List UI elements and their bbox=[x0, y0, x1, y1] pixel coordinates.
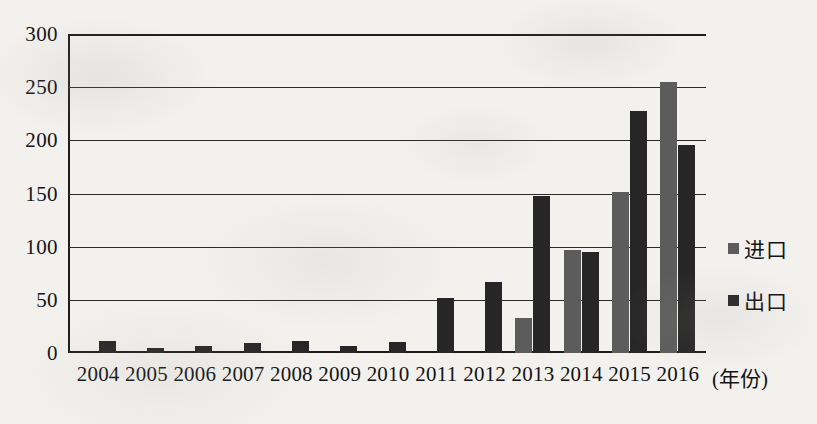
plot-area bbox=[68, 34, 706, 353]
x-axis-tick-label: 2010 bbox=[364, 362, 412, 387]
legend-item: 出口 bbox=[728, 285, 788, 315]
bar-group bbox=[654, 34, 702, 353]
bar bbox=[389, 342, 406, 353]
x-axis-tick-label: 2007 bbox=[219, 362, 267, 387]
y-axis-tick-label: 0 bbox=[47, 341, 58, 366]
x-axis-category-labels: 2004200520062007200820092010201120122013… bbox=[68, 362, 706, 387]
bar bbox=[660, 82, 677, 353]
x-axis-tick-label: 2011 bbox=[412, 362, 460, 387]
bar bbox=[195, 346, 212, 353]
x-axis-tick-label: 2016 bbox=[654, 362, 702, 387]
bar-group bbox=[557, 34, 605, 353]
bar bbox=[533, 196, 550, 353]
y-axis-tick-label: 200 bbox=[25, 128, 58, 153]
bar bbox=[630, 111, 647, 353]
legend-swatch-export bbox=[728, 295, 739, 306]
bar-group bbox=[171, 34, 219, 353]
legend-item: 进口 bbox=[728, 233, 788, 263]
y-axis-tick-label: 100 bbox=[25, 234, 58, 259]
bar-group bbox=[122, 34, 170, 353]
bar-group bbox=[461, 34, 509, 353]
bar bbox=[244, 343, 261, 353]
y-axis-tick-labels: 300250200150100500 bbox=[0, 34, 58, 353]
bar-groups bbox=[68, 34, 706, 353]
x-axis-title: (年份) bbox=[712, 362, 768, 392]
bar-group bbox=[509, 34, 557, 353]
x-axis-tick-label: 2015 bbox=[605, 362, 653, 387]
bar-group bbox=[267, 34, 315, 353]
bar bbox=[485, 282, 502, 353]
y-axis-tick-label: 50 bbox=[36, 287, 58, 312]
bar-group bbox=[605, 34, 653, 353]
bar-group bbox=[219, 34, 267, 353]
x-axis-tick-label: 2009 bbox=[316, 362, 364, 387]
y-axis-tick-label: 150 bbox=[25, 181, 58, 206]
x-axis-tick-label: 2014 bbox=[557, 362, 605, 387]
bar-group bbox=[364, 34, 412, 353]
legend-swatch-import bbox=[728, 243, 739, 254]
bar bbox=[437, 298, 454, 353]
x-axis-tick-label: 2013 bbox=[509, 362, 557, 387]
legend-label: 进口 bbox=[744, 233, 788, 263]
bar-chart: 300250200150100500 200420052006200720082… bbox=[0, 0, 817, 424]
bar bbox=[564, 250, 581, 353]
bar bbox=[292, 341, 309, 353]
bar-group bbox=[316, 34, 364, 353]
x-axis-tick-label: 2005 bbox=[122, 362, 170, 387]
bar bbox=[147, 348, 164, 353]
legend-label: 出口 bbox=[744, 285, 788, 315]
chart-legend: 进口出口 bbox=[728, 233, 788, 315]
bar bbox=[612, 192, 629, 353]
y-axis-tick-label: 250 bbox=[25, 75, 58, 100]
bar-group bbox=[412, 34, 460, 353]
bar bbox=[99, 341, 116, 353]
bar-group bbox=[74, 34, 122, 353]
bar bbox=[340, 346, 357, 353]
y-axis-tick-label: 300 bbox=[25, 22, 58, 47]
bar bbox=[515, 318, 532, 353]
bar bbox=[582, 252, 599, 353]
x-axis-tick-label: 2004 bbox=[74, 362, 122, 387]
x-axis-tick-label: 2006 bbox=[171, 362, 219, 387]
x-axis-tick-label: 2008 bbox=[267, 362, 315, 387]
x-axis-tick-label: 2012 bbox=[461, 362, 509, 387]
bar bbox=[678, 145, 695, 353]
